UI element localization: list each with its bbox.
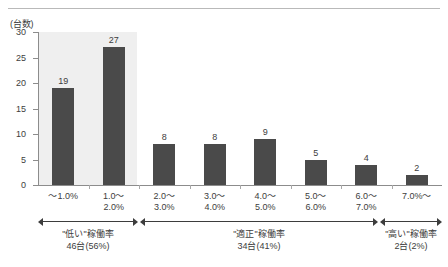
bar-chart-figure: (台数) 19 27 8 8 9 5 4 [0, 0, 448, 267]
bar-value-2: 8 [162, 132, 167, 142]
bracket-caption-normal: "適正"稼働率 34台(41%) [140, 228, 378, 252]
bracket-caption-low: "低い"稼働率 46台(56%) [38, 228, 138, 252]
x-tick-4 [240, 185, 241, 189]
x-tick-2 [139, 185, 140, 189]
bar-slot-0: 19 [38, 32, 89, 185]
bar-3[interactable] [204, 144, 226, 185]
y-tick-label-20: 20 [16, 78, 33, 88]
y-axis-line [38, 32, 39, 186]
bar-value-7: 2 [414, 163, 419, 173]
bar-0[interactable] [52, 88, 74, 185]
x-tick-7 [392, 185, 393, 189]
top-divider [8, 8, 440, 9]
bracket-line [144, 221, 374, 222]
y-tick-20 [33, 83, 38, 84]
x-tick-1 [89, 185, 90, 189]
bar-slot-4: 9 [240, 32, 291, 185]
bracket-caption-high: "高い"稼働率 2台(2%) [368, 228, 448, 252]
bracket-line [384, 221, 438, 222]
y-tick-10 [33, 134, 38, 135]
bar-value-1: 27 [109, 35, 119, 45]
x-tick-label-0: ～1.0% [38, 191, 89, 202]
bar-slot-6: 4 [341, 32, 392, 185]
x-tick-label-7: 7.0%～ [392, 191, 443, 202]
y-tick-0 [33, 185, 38, 186]
x-tick-label-6: 6.0～ 7.0% [341, 191, 392, 213]
x-tick-label-2: 2.0～ 3.0% [139, 191, 190, 213]
bar-value-3: 8 [212, 132, 217, 142]
x-tick-3 [190, 185, 191, 189]
plot-area: 19 27 8 8 9 5 4 2 [38, 32, 442, 185]
x-tick-label-5: 5.0～ 6.0% [291, 191, 342, 213]
bar-5[interactable] [305, 160, 327, 186]
x-tick-label-1: 1.0～ 2.0% [89, 191, 140, 213]
y-tick-label-15: 15 [16, 104, 33, 114]
y-tick-25 [33, 58, 38, 59]
bar-2[interactable] [153, 144, 175, 185]
bar-slot-2: 8 [139, 32, 190, 185]
bar-4[interactable] [254, 139, 276, 185]
bar-value-5: 5 [313, 148, 318, 158]
bar-value-0: 19 [58, 76, 68, 86]
bar-slot-7: 2 [392, 32, 443, 185]
bar-slot-1: 27 [89, 32, 140, 185]
bracket-normal-utilization [140, 217, 378, 226]
x-tick-6 [341, 185, 342, 189]
x-tick-5 [291, 185, 292, 189]
bar-value-4: 9 [263, 127, 268, 137]
y-tick-15 [33, 109, 38, 110]
bracket-high-utilization [380, 217, 442, 226]
bar-7[interactable] [406, 175, 428, 185]
arrow-right-icon [437, 218, 442, 226]
x-tick-label-3: 3.0～ 4.0% [190, 191, 241, 213]
y-tick-label-10: 10 [16, 129, 33, 139]
y-tick-label-0: 0 [21, 180, 33, 190]
arrow-right-icon [373, 218, 378, 226]
x-tick-label-4: 4.0～ 5.0% [240, 191, 291, 213]
bracket-low-utilization [38, 217, 138, 226]
bracket-line [42, 221, 134, 222]
y-tick-label-5: 5 [21, 155, 33, 165]
arrow-right-icon [133, 218, 138, 226]
bar-1[interactable] [103, 47, 125, 185]
bar-slot-5: 5 [291, 32, 342, 185]
y-tick-5 [33, 160, 38, 161]
bar-slot-3: 8 [190, 32, 241, 185]
y-tick-label-30: 30 [16, 27, 33, 37]
y-tick-label-25: 25 [16, 53, 33, 63]
y-tick-30 [33, 32, 38, 33]
bar-value-6: 4 [364, 153, 369, 163]
bar-6[interactable] [355, 165, 377, 185]
